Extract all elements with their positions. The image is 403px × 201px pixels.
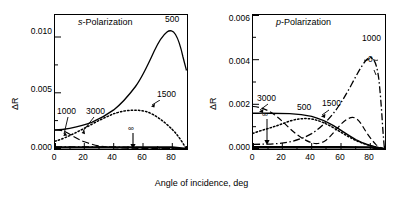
infinity-marker-p: ∞ <box>262 110 268 119</box>
x-tick-label-p-3: 60 <box>334 152 346 162</box>
curve-label-s-500: 500 <box>165 14 179 24</box>
panel-title-p: p-Polarization <box>276 17 331 27</box>
x-tick-label-s-4: 80 <box>165 152 177 162</box>
infinity-marker-s: ∞ <box>128 124 134 133</box>
y-tick-label-right-0: 0.006 <box>216 13 250 23</box>
x-tick-label-s-3: 60 <box>136 152 148 162</box>
infinity-arrow-p <box>262 119 276 147</box>
panel-title-s: s-Polarization <box>78 17 133 27</box>
x-axis-label: Angle of incidence, deg <box>0 178 403 188</box>
curve-label-leaders-s <box>54 100 188 150</box>
x-tick-label-s-2: 40 <box>106 152 118 162</box>
x-tick-label-p-1: 20 <box>275 152 287 162</box>
curve-label-leaders-p <box>252 44 386 124</box>
y-tick-label-left-2: 0.000 <box>18 142 52 152</box>
curve-p-zero <box>253 147 385 149</box>
y-tick-label-right-3: 0.000 <box>216 142 250 152</box>
x-tick-label-p-0: 0 <box>246 152 258 162</box>
y-axis-label-left: ΔR <box>10 97 20 110</box>
y-tick-label-right-2: 0.002 <box>216 99 250 109</box>
curve-label-s-1500: 1500 <box>157 89 176 99</box>
x-tick-label-s-1: 20 <box>77 152 89 162</box>
y-tick-label-left-1: 0.005 <box>18 84 52 94</box>
y-tick-label-left-0: 0.010 <box>18 26 52 36</box>
x-tick-label-p-4: 80 <box>363 152 375 162</box>
panel-title-s-rest: -Polarization <box>83 17 133 27</box>
x-tick-label-s-0: 0 <box>48 152 60 162</box>
infinity-arrow-s <box>128 133 142 151</box>
panel-title-p-rest: -Polarization <box>281 17 331 27</box>
x-tick-label-p-2: 40 <box>304 152 316 162</box>
y-tick-label-right-1: 0.004 <box>216 56 250 66</box>
figure-container: ΔR 0.010 0.005 0.000 <box>0 0 403 201</box>
curve-label-p-1000: 1000 <box>362 33 381 43</box>
